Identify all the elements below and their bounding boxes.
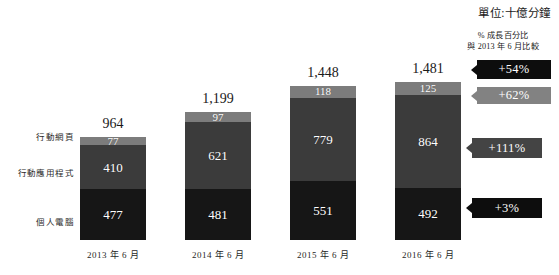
bar-segment-value: 621	[208, 149, 228, 162]
bar-segment-value: 97	[213, 112, 224, 123]
x-axis-label: 2013 年 6 月	[70, 248, 156, 261]
bar-segment-mobile-web[interactable]: 118	[290, 86, 356, 99]
bar-stack[interactable]: 97621481	[185, 112, 251, 240]
bar-group[interactable]: 1,4811258644922016 年 6 月	[395, 0, 461, 275]
bar-segment-value: 118	[315, 86, 331, 97]
bar-group[interactable]: 1,4481187795512015 年 6 月	[290, 0, 356, 275]
bar-segment-value: 410	[103, 161, 123, 174]
bar-group[interactable]: 1,199976214812014 年 6 月	[185, 0, 251, 275]
bar-stack[interactable]: 77410477	[80, 137, 146, 240]
growth-badge[interactable]: +54%	[477, 60, 551, 79]
bar-segment-mobile-app[interactable]: 779	[290, 98, 356, 181]
bar-total-label: 1,481	[395, 61, 461, 77]
bar-total-label: 1,448	[290, 65, 356, 81]
growth-badge-label: +62%	[498, 88, 529, 103]
bar-segment-value: 864	[418, 135, 438, 148]
stacked-bar-chart-plot: 964774104772013 年 6 月1,199976214812014 年…	[0, 0, 559, 275]
bar-segment-value: 492	[418, 207, 438, 220]
bar-segment-value: 125	[420, 83, 437, 94]
growth-badge-label: +111%	[489, 141, 526, 156]
x-axis-label: 2016 年 6 月	[385, 248, 471, 261]
bar-segment-mobile-web[interactable]: 97	[185, 112, 251, 122]
bar-stack[interactable]: 125864492	[395, 82, 461, 240]
bar-segment-mobile-web[interactable]: 77	[80, 137, 146, 145]
bar-segment-pc[interactable]: 551	[290, 181, 356, 240]
growth-badge-label: +54%	[498, 62, 529, 77]
growth-badge-label: +3%	[495, 201, 520, 216]
bar-stack[interactable]: 118779551	[290, 86, 356, 240]
bar-segment-pc[interactable]: 477	[80, 189, 146, 240]
bar-segment-mobile-app[interactable]: 621	[185, 122, 251, 188]
bar-segment-pc[interactable]: 481	[185, 189, 251, 240]
bar-segment-value: 779	[313, 133, 333, 146]
growth-badge[interactable]: +111%	[472, 138, 542, 158]
bar-segment-mobile-app[interactable]: 864	[395, 95, 461, 187]
x-axis-label: 2014 年 6 月	[175, 248, 261, 261]
growth-badge[interactable]: +3%	[472, 198, 542, 218]
bar-segment-value: 481	[208, 208, 228, 221]
bar-segment-mobile-app[interactable]: 410	[80, 145, 146, 189]
bar-total-label: 964	[80, 116, 146, 132]
bar-segment-value: 477	[103, 208, 123, 221]
bar-segment-mobile-web[interactable]: 125	[395, 82, 461, 95]
x-axis-label: 2015 年 6 月	[280, 248, 366, 261]
growth-badge[interactable]: +62%	[477, 87, 551, 104]
bar-segment-pc[interactable]: 492	[395, 188, 461, 240]
bar-group[interactable]: 964774104772013 年 6 月	[80, 0, 146, 275]
bar-total-label: 1,199	[185, 91, 251, 107]
bar-segment-value: 551	[313, 204, 333, 217]
